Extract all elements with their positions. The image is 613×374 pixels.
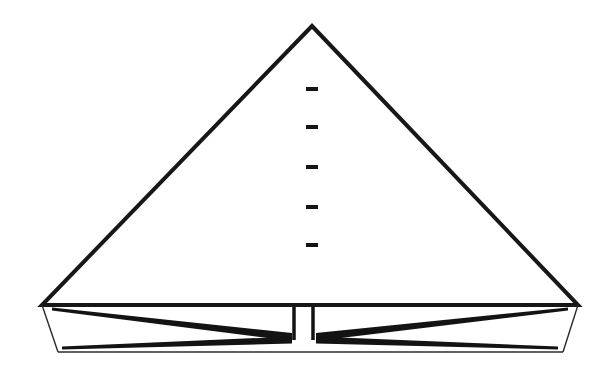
center-dash-1 xyxy=(306,87,318,91)
center-gap-right-bar xyxy=(311,307,315,340)
center-dash-5 xyxy=(306,243,318,247)
figure-canvas xyxy=(0,0,613,374)
center-dash-2 xyxy=(306,125,318,129)
center-dash-4 xyxy=(306,205,318,209)
center-gap-left-bar xyxy=(292,307,296,340)
center-dash-3 xyxy=(306,165,318,169)
diagram-svg xyxy=(0,0,613,374)
canvas-background xyxy=(0,0,613,374)
